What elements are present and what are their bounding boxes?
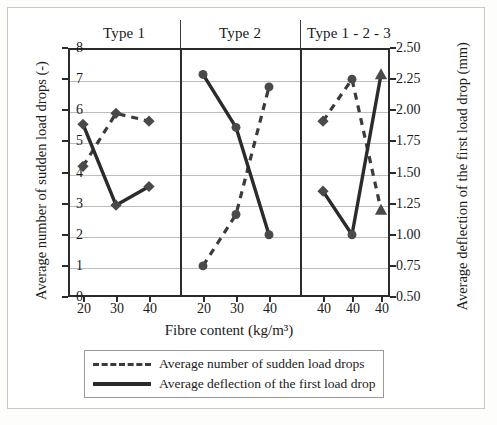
- x-axis-label-p2-0: 20: [189, 301, 219, 317]
- y-axis-title-right: Average deflection of the first load dro…: [454, 51, 471, 311]
- panel-separator-1: [180, 50, 182, 295]
- x-axis-label-p1-2: 40: [135, 301, 165, 317]
- plot-area: [68, 48, 390, 297]
- gridline: [70, 237, 388, 238]
- solid-line-swatch-icon: [85, 382, 159, 386]
- x-axis-label-p3-1: 40: [338, 301, 368, 317]
- y-axis-label-right-1-50: 1.50: [396, 165, 432, 181]
- y-axis-label-left-1: 1: [61, 258, 83, 274]
- y-axis-label-right-0-50: 0.50: [396, 289, 432, 305]
- y-axis-label-right-2-50: 2.50: [396, 40, 432, 56]
- x-axis-label-p2-2: 40: [255, 301, 285, 317]
- y-axis-label-left-2: 2: [61, 227, 83, 243]
- x-axis-label-p1-0: 20: [69, 301, 99, 317]
- panel-header-type-1: Type 1: [68, 20, 180, 46]
- x-axis-title: Fibre content (kg/m³): [68, 322, 390, 339]
- y-axis-label-right-2-00: 2.00: [396, 102, 432, 118]
- legend-label: Average number of sudden load drops: [159, 356, 365, 372]
- y-axis-label-left-8: 8: [61, 40, 83, 56]
- dashed-line-swatch-icon: [85, 363, 159, 366]
- legend-item-first-load-drop-deflection: Average deflection of the first load dro…: [85, 374, 383, 394]
- y-axis-label-left-3: 3: [61, 196, 83, 212]
- y-axis-label-left-4: 4: [61, 165, 83, 181]
- panel-header-type-1-2-3: Type 1 - 2 - 3: [300, 20, 398, 46]
- x-axis-label-p1-1: 30: [102, 301, 132, 317]
- gridline: [70, 268, 388, 269]
- panel-header-type-2: Type 2: [180, 20, 300, 46]
- gridline: [70, 206, 388, 207]
- x-axis-label-p2-1: 30: [222, 301, 252, 317]
- y-axis-label-right-1-75: 1.75: [396, 133, 432, 149]
- legend-item-sudden-load-drops: Average number of sudden load drops: [85, 354, 383, 374]
- y-axis-label-right-1-00: 1.00: [396, 227, 432, 243]
- gridline: [70, 81, 388, 82]
- gridline: [70, 112, 388, 113]
- y-axis-label-right-1-25: 1.25: [396, 196, 432, 212]
- panel-separator-2: [300, 50, 302, 295]
- y-axis-label-left-6: 6: [61, 102, 83, 118]
- x-axis-label-p3-2: 40: [367, 301, 397, 317]
- legend-label: Average deflection of the first load dro…: [159, 376, 375, 392]
- gridline: [70, 143, 388, 144]
- y-axis-label-right-2-25: 2.25: [396, 71, 432, 87]
- gridline: [70, 175, 388, 176]
- chart-figure: Type 1 Type 2 Type 1 - 2 - 3 8 7 6 5 4 3…: [0, 0, 497, 425]
- panel-header-divider-2: [300, 20, 301, 48]
- y-axis-label-right-0-75: 0.75: [396, 258, 432, 274]
- chart-legend: Average number of sudden load drops Aver…: [84, 350, 384, 398]
- panel-header-divider-1: [180, 20, 181, 48]
- y-axis-title-left: Average number of sudden load drops (-): [33, 56, 50, 306]
- x-axis-label-p3-0: 40: [309, 301, 339, 317]
- y-axis-label-left-5: 5: [61, 133, 83, 149]
- y-axis-label-left-7: 7: [61, 71, 83, 87]
